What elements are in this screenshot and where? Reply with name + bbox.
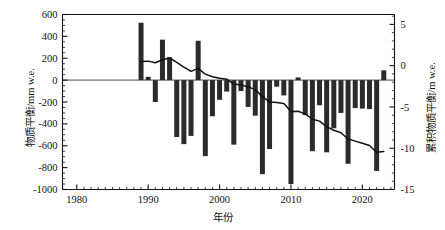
bar-1991 [153, 80, 158, 102]
bar-1989 [139, 23, 144, 80]
ytick-right-label--5: -5 [401, 102, 410, 113]
xtick-label-2000: 2000 [209, 194, 230, 205]
bar-2021 [367, 80, 372, 109]
bar-2016 [331, 80, 336, 128]
bar-2019 [353, 80, 358, 108]
ytick-label-0: 0 [52, 75, 57, 86]
xtick-label-1980: 1980 [66, 194, 87, 205]
bar-2011 [296, 77, 301, 80]
bar-2002 [231, 80, 236, 145]
bar-1999 [210, 80, 215, 116]
bar-2014 [317, 80, 322, 105]
ytick-label-600: 600 [42, 9, 58, 20]
bar-1997 [196, 41, 201, 80]
ytick-label--800: -800 [38, 162, 57, 173]
bar-1995 [181, 80, 186, 144]
ytick-label--600: -600 [38, 140, 57, 151]
bar-2008 [274, 80, 279, 87]
axes-frame [63, 15, 395, 190]
ytick-label--200: -200 [38, 97, 57, 108]
bar-2007 [267, 80, 272, 149]
bar-2020 [360, 80, 365, 108]
bar-2004 [246, 80, 251, 107]
bar-2013 [310, 80, 315, 151]
bar-1990 [146, 77, 151, 80]
bar-2022 [374, 80, 379, 171]
mass-balance-chart: 198019902000201020206004002000-200-400-6… [0, 0, 445, 230]
ytick-label-200: 200 [42, 53, 58, 64]
bar-2015 [324, 80, 329, 152]
bar-2010 [288, 80, 293, 184]
xtick-label-1990: 1990 [138, 194, 159, 205]
xtick-label-2010: 2010 [280, 194, 301, 205]
bar-2009 [281, 80, 286, 95]
ytick-label--1000: -1000 [33, 184, 58, 195]
ytick-right-label--10: -10 [401, 143, 415, 154]
ytick-right-label-5: 5 [401, 19, 406, 30]
bar-2001 [224, 80, 229, 91]
ytick-right-label--15: -15 [401, 184, 415, 195]
bar-2017 [338, 80, 343, 113]
xtick-label-2020: 2020 [352, 194, 373, 205]
bar-2012 [303, 80, 308, 115]
bar-2005 [253, 80, 258, 116]
chart-figure: 物质平衡/mm w.e. 累积物质平衡/m w.e. 年份 1980199020… [0, 0, 445, 230]
bar-1993 [167, 57, 172, 80]
bar-1994 [174, 80, 179, 137]
bar-2023 [381, 70, 386, 80]
bar-series [139, 23, 387, 184]
bar-1998 [203, 80, 208, 156]
ytick-right-label-0: 0 [401, 60, 406, 71]
bar-2000 [217, 80, 222, 100]
ytick-label-400: 400 [42, 31, 58, 42]
ytick-label--400: -400 [38, 118, 57, 129]
bar-1996 [189, 80, 194, 136]
bar-2018 [346, 80, 351, 164]
